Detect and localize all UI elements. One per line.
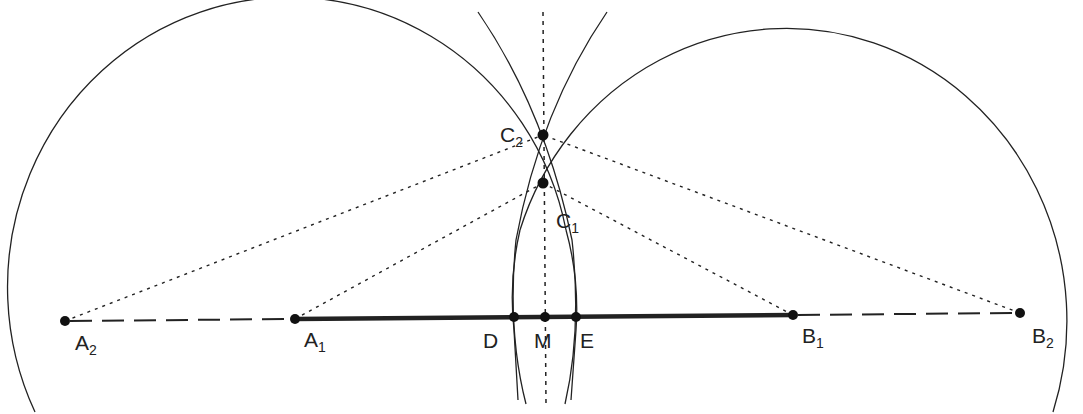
label-d: D [483,329,498,352]
label-m: M [534,329,552,352]
label-c2: C2 [500,123,523,150]
label-a1: A1 [304,328,326,355]
extension-b1-b2 [798,313,1015,315]
circle-center-b1 [520,28,1067,412]
point-e [571,312,581,322]
point-a1 [290,314,300,324]
point-m [540,312,550,322]
point-c2 [538,130,549,141]
point-b1 [788,310,798,320]
point-d [509,312,519,322]
label-c1: C1 [556,209,579,236]
line-a1-c1 [295,183,543,319]
label-a2: A2 [75,331,97,358]
line-b1-c1 [543,183,793,315]
geometry-diagram: A2 A1 D M E B1 B2 C2 C1 [0,0,1083,414]
extension-a2-a1 [70,319,290,321]
point-c1 [538,178,549,189]
point-b2 [1015,308,1025,318]
line-a2-c2 [65,135,543,321]
line-b2-c2 [543,135,1020,313]
construction-canvas: A2 A1 D M E B1 B2 C2 C1 [0,0,1083,414]
label-e: E [580,329,594,352]
label-b2: B2 [1032,324,1054,351]
label-b1: B1 [802,324,824,351]
point-a2 [60,316,70,326]
